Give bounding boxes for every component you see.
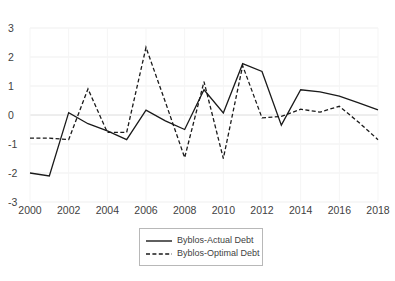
x-axis-tick-2004: 2004 [87,205,127,216]
x-axis-tick-2000: 2000 [10,205,50,216]
legend-swatch-dashed-icon [146,249,172,259]
series-lines [30,47,378,175]
y-axis-tick-3: 3 [8,23,28,33]
legend-label-actual: Byblos-Actual Debt [177,235,254,246]
chart-legend: Byblos-Actual Debt Byblos-Optimal Debt [139,228,263,266]
y-axis-tick-2: 2 [8,52,28,62]
legend-swatch-solid-icon [146,236,172,246]
line-chart: 3210-1-2-3 20002002200420062008201020122… [0,0,395,281]
y-axis-tick-1: 1 [8,81,28,91]
legend-item-actual: Byblos-Actual Debt [146,234,255,247]
plot-svg [30,28,378,202]
y-axis-tick-0: 0 [8,110,28,120]
grid-lines [30,28,378,202]
legend-item-optimal: Byblos-Optimal Debt [146,247,255,260]
legend-label-optimal: Byblos-Optimal Debt [177,248,260,259]
x-axis-tick-2008: 2008 [165,205,205,216]
x-axis-tick-2012: 2012 [242,205,282,216]
x-axis-tick-2016: 2016 [319,205,359,216]
y-axis-tick-neg2: -2 [8,168,28,178]
x-axis-tick-2014: 2014 [281,205,321,216]
series-line-byblos-optimal-debt [30,47,378,158]
y-axis-tick-neg1: -1 [8,139,28,149]
x-axis-tick-2010: 2010 [203,205,243,216]
series-line-byblos-actual-debt [30,64,378,176]
x-axis-tick-2002: 2002 [49,205,89,216]
x-axis-tick-2006: 2006 [126,205,166,216]
plot-area [30,28,378,202]
x-axis-tick-2018: 2018 [358,205,395,216]
